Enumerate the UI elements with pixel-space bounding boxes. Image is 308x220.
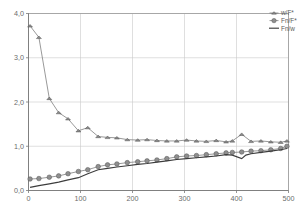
x-tick-label: 500 (283, 194, 295, 203)
y-tick-label: 0,0 (14, 186, 24, 195)
data-point-marker (174, 155, 179, 160)
chart-container: 0,01,02,03,04,0 0100200300400500 w/F*Fn/… (0, 0, 308, 220)
data-point-marker (230, 150, 235, 155)
x-tick-label: 300 (179, 194, 191, 203)
data-point-marker (184, 154, 189, 159)
data-point-marker (47, 175, 52, 180)
data-point-marker (85, 167, 90, 172)
data-point-marker (249, 149, 254, 154)
data-point-marker (56, 174, 61, 179)
data-point-marker (135, 159, 140, 164)
chart-legend: w/F*Fn/F*Fn/w (269, 9, 297, 31)
y-tick-label: 4,0 (14, 9, 24, 18)
data-point-marker (37, 176, 42, 181)
x-tick-label: 100 (75, 194, 87, 203)
legend-label: w/F* (280, 9, 294, 16)
y-tick-label: 2,0 (14, 98, 24, 107)
data-point-marker (96, 164, 101, 169)
legend-label: Fn/F* (281, 17, 297, 24)
data-point-marker (115, 162, 120, 167)
data-point-marker (239, 150, 244, 155)
data-point-marker (105, 163, 110, 168)
data-point-marker (28, 177, 33, 182)
data-point-marker (285, 144, 290, 149)
y-tick-label: 3,0 (14, 53, 24, 62)
legend-label: Fn/w (281, 25, 295, 32)
data-point-marker (145, 159, 150, 164)
x-tick-label: 0 (27, 194, 31, 203)
chart-plot: 0,01,02,03,04,0 0100200300400500 w/F*Fn/… (0, 0, 308, 220)
y-tick-label: 1,0 (14, 142, 24, 151)
x-tick-label: 400 (231, 194, 243, 203)
data-point-marker (76, 169, 81, 174)
data-point-marker (125, 160, 130, 165)
circle-marker-icon (272, 18, 276, 22)
data-point-marker (66, 171, 71, 176)
plot-background (0, 0, 308, 220)
x-tick-label: 200 (127, 194, 139, 203)
